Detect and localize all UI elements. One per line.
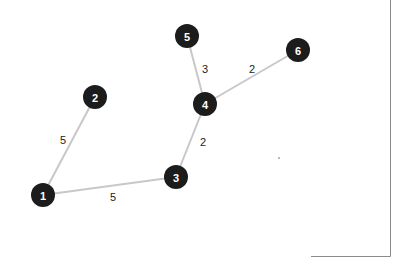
panel-frame [311,0,391,257]
edge-1-2 [43,97,95,195]
node-label: 4 [202,99,209,111]
edge-labels-layer: 55232 [60,63,255,203]
graph-node-6[interactable]: 6 [286,38,310,62]
node-label: 1 [40,190,46,202]
edge-weight-label-4-6: 2 [249,63,255,75]
graph-canvas: 55232 123456 [0,0,403,259]
node-label: 5 [184,31,190,43]
stray-dot [278,157,280,159]
graph-node-1[interactable]: 1 [31,183,55,207]
edge-weight-label-1-3: 5 [110,191,116,203]
edge-weight-label-3-4: 2 [200,136,206,148]
edge-weight-label-4-5: 3 [202,63,208,75]
graph-node-2[interactable]: 2 [83,85,107,109]
graph-node-3[interactable]: 3 [164,165,188,189]
node-label: 6 [295,45,301,57]
nodes-layer: 123456 [31,24,310,207]
graph-node-5[interactable]: 5 [175,24,199,48]
edge-4-6 [205,50,298,104]
node-label: 3 [173,172,179,184]
edge-weight-label-1-2: 5 [60,134,66,146]
graph-node-4[interactable]: 4 [193,92,217,116]
node-label: 2 [92,92,98,104]
